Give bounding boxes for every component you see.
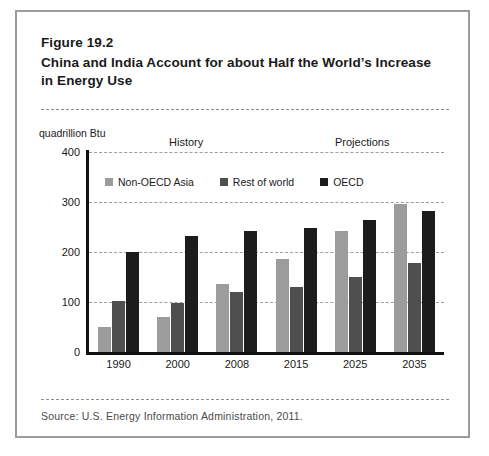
x-tick-label: 2015 — [267, 358, 326, 370]
y-tick-label: 0 — [74, 346, 80, 358]
bar-group — [157, 152, 198, 352]
gridline — [89, 252, 444, 253]
gridline — [89, 302, 444, 303]
bar[interactable] — [171, 303, 184, 352]
annotation-history: History — [169, 136, 203, 148]
bar[interactable] — [276, 259, 289, 353]
annotation-projections: Projections — [335, 136, 389, 148]
bar[interactable] — [408, 263, 421, 352]
gridline — [89, 202, 444, 203]
y-tick-label: 100 — [62, 296, 80, 308]
plot-area: 0100200300400 199020002008201520252035 — [89, 152, 444, 352]
x-tick-label: 2035 — [385, 358, 444, 370]
divider-bottom — [41, 399, 449, 400]
bar[interactable] — [422, 211, 435, 353]
bar[interactable] — [290, 287, 303, 353]
x-tick-label: 2008 — [207, 358, 266, 370]
bar-chart: quadrillion Btu History Projections Non-… — [17, 12, 472, 440]
bar-group — [335, 152, 376, 352]
source-note: Source: U.S. Energy Information Administ… — [41, 410, 303, 422]
bar[interactable] — [230, 292, 243, 352]
x-tick-label: 1990 — [89, 358, 148, 370]
x-tick-label: 2025 — [326, 358, 385, 370]
bar[interactable] — [349, 277, 362, 352]
bar[interactable] — [112, 301, 125, 353]
bar-group — [394, 152, 435, 352]
bar-group — [98, 152, 139, 352]
bar[interactable] — [244, 231, 257, 352]
y-axis-title: quadrillion Btu — [39, 127, 106, 139]
bar[interactable] — [335, 231, 348, 353]
bar[interactable] — [157, 317, 170, 352]
bar[interactable] — [216, 284, 229, 352]
gridline — [89, 152, 444, 153]
x-axis-line — [86, 352, 444, 355]
bar[interactable] — [304, 228, 317, 352]
x-tick-label: 2000 — [148, 358, 207, 370]
bar[interactable] — [363, 220, 376, 353]
bar[interactable] — [185, 236, 198, 352]
bar-group — [216, 152, 257, 352]
y-tick-label: 300 — [62, 196, 80, 208]
y-tick-label: 200 — [62, 246, 80, 258]
bar[interactable] — [126, 252, 139, 352]
y-tick-label: 400 — [62, 146, 80, 158]
bar[interactable] — [98, 327, 111, 352]
bar[interactable] — [394, 204, 407, 353]
figure-frame: Figure 19.2 China and India Account for … — [15, 10, 470, 438]
bar-group — [276, 152, 317, 352]
